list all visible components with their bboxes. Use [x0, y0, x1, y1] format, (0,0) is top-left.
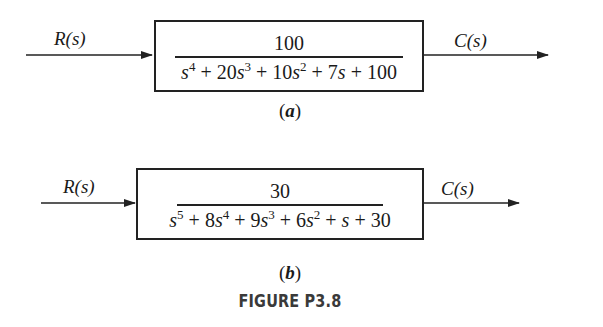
denominator-a: s4 + 20s3 + 10s2 + 7s + 100 — [156, 61, 422, 83]
caption-b: (b) — [260, 262, 320, 284]
fraction-a: 100 s4 + 20s3 + 10s2 + 7s + 100 — [156, 32, 422, 83]
output-label-b: C(s) — [441, 178, 474, 200]
caption-a: (a) — [260, 100, 320, 122]
denominator-b: s5 + 8s4 + 9s3 + 6s2 + s + 30 — [138, 209, 422, 231]
transfer-function-block-a: 100 s4 + 20s3 + 10s2 + 7s + 100 — [154, 20, 424, 92]
output-label-a: C(s) — [454, 30, 487, 52]
input-label-b: R(s) — [63, 176, 95, 198]
numerator-a: 100 — [156, 32, 422, 54]
input-label-a: R(s) — [54, 28, 86, 50]
fraction-b: 30 s5 + 8s4 + 9s3 + 6s2 + s + 30 — [138, 180, 422, 231]
numerator-b: 30 — [138, 180, 422, 202]
transfer-function-block-b: 30 s5 + 8s4 + 9s3 + 6s2 + s + 30 — [136, 168, 424, 240]
fraction-bar-a — [175, 56, 403, 58]
figure-title: FIGURE P3.8 — [226, 291, 354, 311]
fraction-bar-b — [177, 204, 383, 206]
